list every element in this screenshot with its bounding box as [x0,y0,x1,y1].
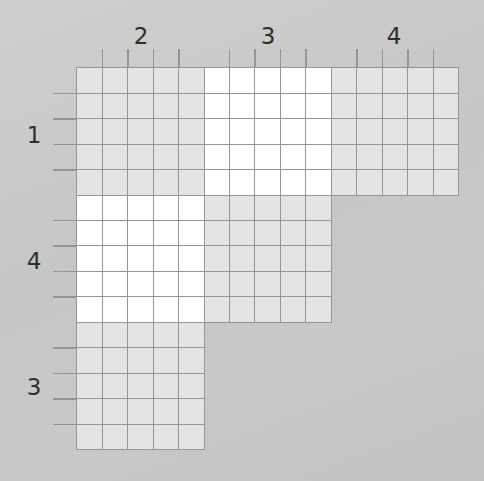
grid-cell[interactable] [204,144,231,171]
grid-cell[interactable] [178,93,205,120]
grid-cell[interactable] [229,245,256,272]
grid-cell[interactable] [280,195,307,222]
grid-cell[interactable] [178,118,205,145]
grid-cell[interactable] [331,169,358,196]
grid-cell[interactable] [356,169,383,196]
grid-cell[interactable] [280,93,307,120]
grid-cell[interactable] [76,67,103,94]
grid-cell[interactable] [305,220,332,247]
grid-cell[interactable] [254,271,281,298]
grid-cell[interactable] [280,67,307,94]
grid-cell[interactable] [254,169,281,196]
grid-cell[interactable] [433,93,460,120]
grid-cell[interactable] [280,169,307,196]
grid-cell[interactable] [204,118,231,145]
grid-cell[interactable] [127,195,154,222]
grid-cell[interactable] [102,398,129,425]
grid-cell[interactable] [178,373,205,400]
grid-cell[interactable] [76,398,103,425]
grid-cell[interactable] [153,373,180,400]
grid-cell[interactable] [204,245,231,272]
grid-cell[interactable] [153,118,180,145]
grid-cell[interactable] [204,93,231,120]
grid-cell[interactable] [127,169,154,196]
grid-cell[interactable] [178,220,205,247]
grid-cell[interactable] [331,144,358,171]
grid-cell[interactable] [280,296,307,323]
grid-cell[interactable] [127,271,154,298]
grid-cell[interactable] [153,322,180,349]
grid-cell[interactable] [178,424,205,451]
grid-cell[interactable] [305,118,332,145]
grid-cell[interactable] [229,144,256,171]
grid-cell[interactable] [382,93,409,120]
grid-cell[interactable] [178,347,205,374]
grid-cell[interactable] [407,118,434,145]
grid-cell[interactable] [153,398,180,425]
grid-cell[interactable] [407,67,434,94]
grid-cell[interactable] [76,220,103,247]
grid-cell[interactable] [102,296,129,323]
grid-cell[interactable] [127,144,154,171]
grid-cell[interactable] [356,93,383,120]
grid-cell[interactable] [305,169,332,196]
grid-cell[interactable] [76,144,103,171]
grid-cell[interactable] [229,118,256,145]
grid-cell[interactable] [254,245,281,272]
grid-cell[interactable] [153,245,180,272]
grid-cell[interactable] [76,424,103,451]
grid-cell[interactable] [127,398,154,425]
grid-cell[interactable] [178,271,205,298]
grid-cell[interactable] [76,347,103,374]
grid-cell[interactable] [153,67,180,94]
grid-cell[interactable] [305,271,332,298]
grid-cell[interactable] [178,245,205,272]
grid-cell[interactable] [76,195,103,222]
grid-cell[interactable] [127,220,154,247]
grid-cell[interactable] [127,296,154,323]
grid-cell[interactable] [102,93,129,120]
grid-cell[interactable] [407,144,434,171]
grid-cell[interactable] [254,93,281,120]
grid-cell[interactable] [178,322,205,349]
grid-cell[interactable] [356,67,383,94]
grid-cell[interactable] [127,93,154,120]
grid-cell[interactable] [280,144,307,171]
grid-cell[interactable] [229,169,256,196]
grid-cell[interactable] [433,144,460,171]
grid-cell[interactable] [305,245,332,272]
grid-cell[interactable] [127,67,154,94]
grid-cell[interactable] [254,118,281,145]
grid-cell[interactable] [102,144,129,171]
grid-cell[interactable] [178,398,205,425]
grid-cell[interactable] [76,169,103,196]
grid-cell[interactable] [178,144,205,171]
grid-cell[interactable] [382,118,409,145]
grid-cell[interactable] [382,169,409,196]
grid-cell[interactable] [102,118,129,145]
grid-cell[interactable] [102,220,129,247]
grid-cell[interactable] [153,271,180,298]
grid-cell[interactable] [153,220,180,247]
grid-cell[interactable] [433,67,460,94]
grid-cell[interactable] [331,118,358,145]
grid-cell[interactable] [153,93,180,120]
grid-cell[interactable] [76,373,103,400]
grid-cell[interactable] [153,144,180,171]
grid-cell[interactable] [153,296,180,323]
grid-cell[interactable] [229,195,256,222]
grid-cell[interactable] [305,67,332,94]
grid-cell[interactable] [178,67,205,94]
grid-cell[interactable] [407,93,434,120]
grid-cell[interactable] [204,169,231,196]
grid-cell[interactable] [204,220,231,247]
grid-cell[interactable] [407,169,434,196]
grid-cell[interactable] [356,144,383,171]
grid-cell[interactable] [280,245,307,272]
grid-cell[interactable] [280,118,307,145]
grid-cell[interactable] [102,424,129,451]
grid-cell[interactable] [102,195,129,222]
grid-cell[interactable] [76,296,103,323]
grid-cell[interactable] [153,347,180,374]
grid-cell[interactable] [229,93,256,120]
